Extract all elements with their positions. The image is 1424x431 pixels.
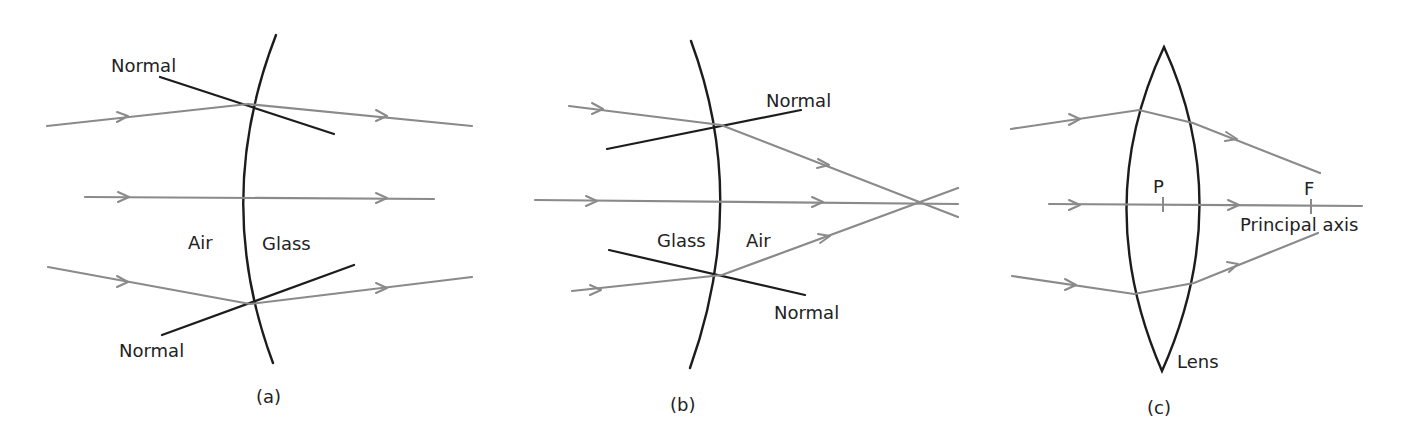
- medium-label-glass-a: Glass: [262, 233, 311, 254]
- refraction-diagram: Normal Normal Air Glass (a) Normal Norma…: [0, 0, 1424, 431]
- panel-b: Normal Normal Glass Air (b): [535, 41, 958, 415]
- normal-line-top-b: [607, 110, 801, 149]
- caption-a: (a): [256, 386, 281, 407]
- glass-air-surface-b: [690, 41, 720, 368]
- ray-top-a: [47, 104, 472, 126]
- principal-axis-label: Principal axis: [1240, 214, 1359, 235]
- ray-middle-b: [535, 200, 958, 204]
- ray-bottom-c: [1012, 233, 1318, 294]
- focus-label: F: [1304, 178, 1314, 199]
- lens-label: Lens: [1177, 351, 1219, 372]
- medium-label-glass-b: Glass: [657, 230, 706, 251]
- medium-label-air-a: Air: [188, 232, 213, 253]
- normal-line-bottom-a: [162, 265, 354, 335]
- principal-axis-line: [1049, 204, 1362, 206]
- caption-b: (b): [670, 394, 695, 415]
- normal-label-bottom-b: Normal: [774, 302, 839, 323]
- ray-top-c: [1011, 110, 1320, 173]
- normal-line-top-a: [160, 77, 334, 134]
- caption-c: (c): [1147, 397, 1171, 418]
- normal-line-bottom-b: [609, 250, 805, 295]
- ray-middle-a: [85, 197, 434, 199]
- normal-label-top-b: Normal: [766, 90, 831, 111]
- normal-label-top-a: Normal: [111, 55, 176, 76]
- medium-label-air-b: Air: [746, 230, 771, 251]
- panel-c: P F Principal axis Lens (c): [1011, 47, 1362, 418]
- pole-label: P: [1153, 176, 1164, 197]
- arrow-icon: [376, 110, 387, 121]
- normal-label-bottom-a: Normal: [119, 340, 184, 361]
- panel-a: Normal Normal Air Glass (a): [47, 35, 472, 407]
